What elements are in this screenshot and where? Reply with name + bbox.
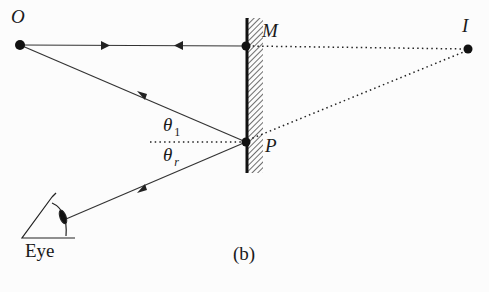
virtual-rays [150,46,468,142]
label-o: O [11,6,25,28]
point-m [242,42,251,51]
ray-o-p [20,45,246,142]
mirror-reflection-diagram: O M I P θ1 θr Eye (b) [0,0,489,292]
plane-mirror [247,18,263,173]
figure-caption: (b) [233,243,255,265]
point-i [464,45,473,54]
label-m: M [262,20,278,42]
arrow-forward-icon [101,41,110,50]
angle-incidence-label: θ1 [163,114,178,136]
ray-p-eye [66,142,246,219]
point-o [15,40,25,50]
angle-reflection-label: θr [163,144,177,166]
label-p: P [265,135,277,157]
arrow-backward-icon [174,41,183,50]
eye-icon [22,193,75,238]
eye-label: Eye [25,240,55,262]
point-p [242,138,251,147]
ray-o-m [20,41,246,50]
label-i: I [462,15,468,37]
